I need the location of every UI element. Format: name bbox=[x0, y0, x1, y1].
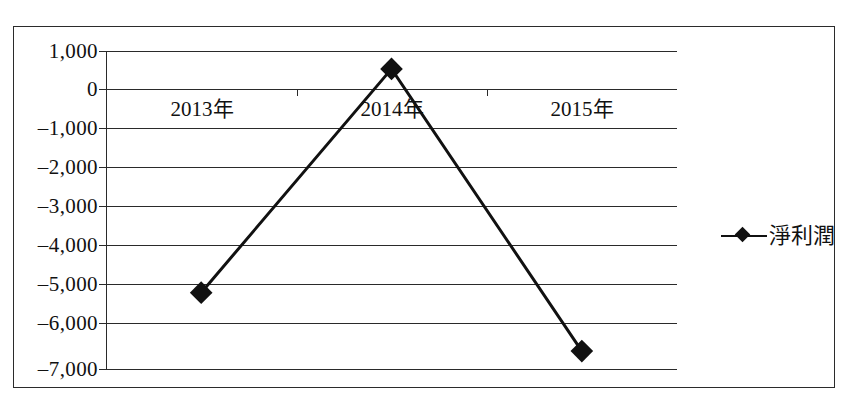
y-axis-tick-label: –3,000 bbox=[38, 196, 98, 217]
y-axis-tick bbox=[99, 167, 106, 168]
y-axis-tick-label: –7,000 bbox=[38, 359, 98, 380]
legend: 淨利潤 bbox=[721, 225, 835, 247]
y-axis-tick-label: –6,000 bbox=[38, 313, 98, 334]
diamond-marker-icon bbox=[735, 227, 751, 243]
legend-marker bbox=[721, 226, 767, 246]
data-series-net-profit bbox=[106, 51, 677, 369]
y-axis-tick-labels: 1,000 0 –1,000 –2,000 –3,000 –4,000 –5,0… bbox=[14, 51, 98, 369]
y-axis-tick bbox=[99, 51, 106, 52]
y-axis-tick-label: –2,000 bbox=[38, 157, 98, 178]
y-axis-tick bbox=[99, 89, 106, 90]
y-axis-tick bbox=[99, 128, 106, 129]
y-axis-tick-label: –5,000 bbox=[38, 274, 98, 295]
y-axis-tick-label: –1,000 bbox=[38, 118, 98, 139]
y-axis-tick-label: 1,000 bbox=[49, 41, 98, 62]
data-point-marker[interactable] bbox=[571, 340, 594, 363]
gridline bbox=[106, 369, 677, 370]
y-axis-tick bbox=[99, 284, 106, 285]
y-axis-tick-label: –4,000 bbox=[38, 235, 98, 256]
y-axis-tick bbox=[99, 369, 106, 370]
series-line bbox=[201, 69, 582, 351]
chart-frame: 1,000 0 –1,000 –2,000 –3,000 –4,000 –5,0… bbox=[13, 26, 835, 388]
legend-label: 淨利潤 bbox=[769, 225, 835, 247]
plot-area: 2013年 2014年 2015年 bbox=[106, 51, 677, 369]
y-axis-tick bbox=[99, 323, 106, 324]
y-axis-tick-label: 0 bbox=[87, 79, 98, 100]
y-axis-tick bbox=[99, 206, 106, 207]
y-axis-tick bbox=[99, 245, 106, 246]
